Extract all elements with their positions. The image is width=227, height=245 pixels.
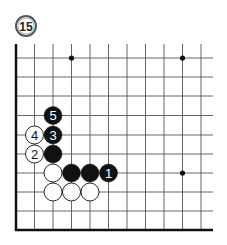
problem-number-badge: 15 <box>16 16 36 36</box>
black-stone: 3 <box>44 126 62 144</box>
move-number: 1 <box>105 166 112 181</box>
black-stone: 5 <box>44 107 62 125</box>
star-point-icon <box>69 55 74 60</box>
move-number: 2 <box>31 147 38 162</box>
white-stone: 4 <box>26 126 44 144</box>
white-stone <box>44 183 62 201</box>
black-stone <box>81 164 99 182</box>
star-point-icon <box>180 170 185 175</box>
black-stone: 1 <box>100 164 118 182</box>
black-stone <box>44 145 62 163</box>
move-number: 4 <box>31 128 38 143</box>
move-number: 3 <box>49 128 56 143</box>
problem-number: 15 <box>19 20 33 34</box>
move-number: 5 <box>49 108 56 123</box>
black-stone <box>63 164 81 182</box>
go-board-diagram: 15 53421 <box>0 0 227 245</box>
white-stone: 2 <box>26 145 44 163</box>
white-stone <box>44 164 62 182</box>
white-stone <box>81 183 99 201</box>
star-point-icon <box>180 55 185 60</box>
white-stone <box>63 183 81 201</box>
